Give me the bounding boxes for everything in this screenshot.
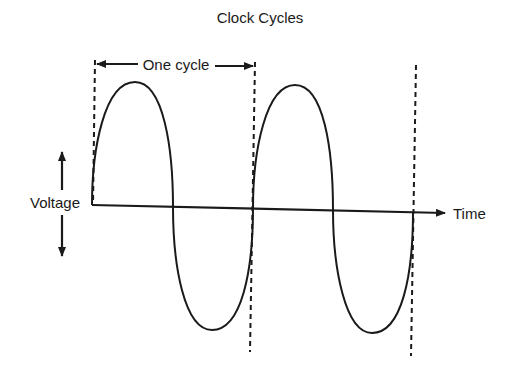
time-axis-label: Time — [453, 205, 486, 222]
clock-cycle-diagram: One cycle Time Voltage — [0, 0, 520, 370]
sine-waveform — [92, 82, 413, 333]
voltage-axis-label: Voltage — [30, 194, 80, 211]
time-axis — [92, 205, 445, 213]
boundary-line-end — [411, 65, 416, 356]
one-cycle-label: One cycle — [143, 56, 210, 73]
